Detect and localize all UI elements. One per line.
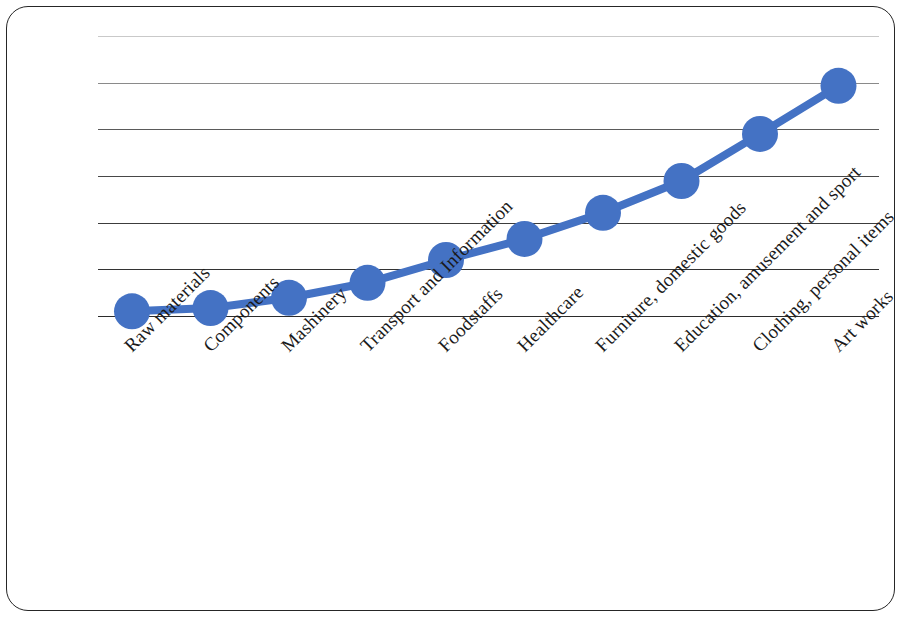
category-label: Transport and Information [356, 195, 517, 356]
gridline [98, 83, 879, 84]
gridline [98, 36, 879, 37]
data-point-marker[interactable] [821, 68, 857, 104]
data-point-marker[interactable] [742, 116, 778, 152]
line-series [7, 7, 895, 611]
category-label: Components [199, 272, 284, 357]
data-point-marker[interactable] [585, 195, 621, 231]
category-label: Foodstaffs [434, 283, 507, 356]
data-point-marker[interactable] [507, 221, 543, 257]
category-label: Mashinery [277, 282, 351, 356]
chart-frame: Raw materialsComponentsMashineryTranspor… [6, 6, 895, 611]
data-point-marker[interactable] [664, 163, 700, 199]
category-label: Clothing, personal items [748, 206, 895, 357]
category-label: Healthcare [513, 281, 588, 356]
category-label: Art works [827, 286, 896, 357]
plot-area: Raw materialsComponentsMashineryTranspor… [7, 7, 895, 611]
category-label: Furniture, domestic goods [591, 197, 751, 357]
gridline [98, 176, 879, 177]
gridline [98, 129, 879, 130]
